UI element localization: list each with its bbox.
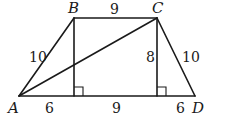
vertex-label-b: B [67, 0, 79, 17]
length-label-base-right: 6 [176, 100, 185, 116]
right-angle-marker-h1 [74, 87, 83, 96]
vertex-label-a: A [6, 99, 19, 117]
length-label-bc: 9 [110, 1, 119, 17]
length-label-cd: 10 [182, 49, 200, 65]
vertex-label-c: C [152, 0, 164, 17]
vertex-label-d: D [191, 99, 204, 117]
length-label-base-left: 6 [45, 100, 54, 116]
right-angle-marker-h2 [157, 87, 166, 96]
trapezoid-diagram: B C A D 9 10 10 8 6 9 6 [0, 0, 228, 119]
length-label-ab: 10 [29, 49, 47, 65]
length-label-altitude-c: 8 [146, 49, 155, 65]
length-label-base-middle: 9 [112, 100, 121, 116]
